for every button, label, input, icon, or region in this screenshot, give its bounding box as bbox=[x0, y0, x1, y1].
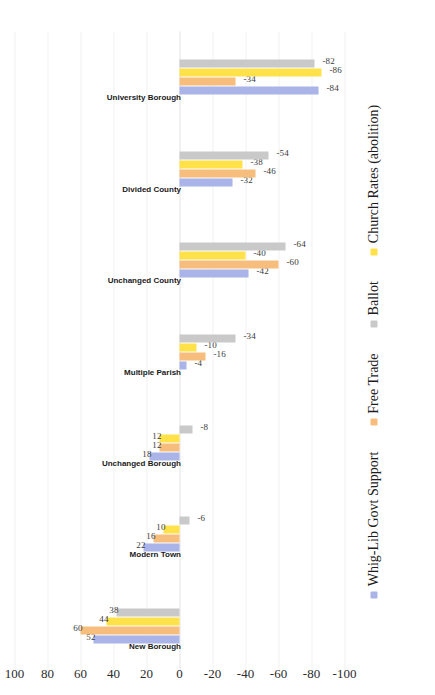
bars: -32-46-38-54Divided County bbox=[14, 122, 344, 213]
legend-label: Free Trade bbox=[365, 353, 381, 413]
bar-value-label: 12 bbox=[152, 430, 161, 440]
bar-group: 52604438New Borough bbox=[14, 580, 344, 671]
bar bbox=[179, 59, 314, 67]
bar-value-label: -64 bbox=[293, 238, 305, 248]
legend-item[interactable]: Free Trade bbox=[365, 353, 381, 425]
bar bbox=[179, 334, 235, 342]
bar-value-label: 60 bbox=[73, 622, 82, 632]
legend-swatch-icon bbox=[370, 418, 377, 425]
bar-group: -84-34-86-82University Borough bbox=[14, 31, 344, 122]
legend-item[interactable]: Church Rates (abolition) bbox=[365, 104, 381, 254]
category-label: Divided County bbox=[122, 184, 181, 193]
bar bbox=[159, 443, 179, 451]
bar bbox=[179, 260, 278, 268]
legend-swatch-icon bbox=[370, 320, 377, 327]
bar bbox=[179, 178, 232, 186]
category-label: New Borough bbox=[129, 641, 181, 650]
bar-group: 221610-6Modern Town bbox=[14, 488, 344, 579]
bar bbox=[116, 608, 179, 616]
legend-item[interactable]: Whig-Lib Govt Support bbox=[365, 451, 381, 598]
bar bbox=[179, 343, 196, 351]
rotated-figure: 52604438New Borough221610-6Modern Town18… bbox=[0, 0, 435, 695]
bar bbox=[179, 77, 235, 85]
bar-value-label: -6 bbox=[197, 512, 205, 522]
category-label: Multiple Parish bbox=[124, 367, 181, 376]
bar-value-label: 22 bbox=[135, 539, 144, 549]
legend-swatch-icon bbox=[370, 248, 377, 255]
bar bbox=[179, 352, 205, 360]
category-label: University Borough bbox=[106, 93, 180, 102]
category-label: Unchanged County bbox=[107, 276, 180, 285]
bar-value-label: 18 bbox=[142, 448, 151, 458]
chart-legend: Whig-Lib Govt SupportFree TradeBallotChu… bbox=[360, 31, 386, 671]
bar bbox=[179, 425, 192, 433]
bar bbox=[179, 251, 245, 259]
bars: -84-34-86-82University Borough bbox=[14, 31, 344, 122]
legend-label: Church Rates (abolition) bbox=[365, 104, 381, 242]
bar bbox=[80, 626, 179, 634]
bar-value-label: 16 bbox=[145, 530, 154, 540]
bar bbox=[179, 68, 321, 76]
bar-value-label: -8 bbox=[200, 421, 208, 431]
bar bbox=[179, 169, 255, 177]
bar bbox=[179, 242, 285, 250]
bar bbox=[159, 434, 179, 442]
bar bbox=[153, 534, 179, 542]
bar-value-label: 10 bbox=[155, 521, 164, 531]
bar bbox=[179, 151, 268, 159]
legend-item[interactable]: Ballot bbox=[365, 281, 381, 327]
bar bbox=[179, 86, 318, 94]
bar-value-label: -34 bbox=[243, 330, 255, 340]
bars: 52604438New Borough bbox=[14, 580, 344, 671]
bars: -4-16-10-34Multiple Parish bbox=[14, 305, 344, 396]
bars: 181212-8Unchanged Borough bbox=[14, 397, 344, 488]
bar-value-label: -60 bbox=[286, 256, 298, 266]
bars: -42-60-40-64Unchanged County bbox=[14, 214, 344, 305]
bar bbox=[179, 269, 248, 277]
plot-area: 52604438New Borough221610-6Modern Town18… bbox=[14, 31, 344, 671]
legend-label: Whig-Lib Govt Support bbox=[365, 451, 381, 586]
chart-canvas: 52604438New Borough221610-6Modern Town18… bbox=[0, 0, 435, 695]
bar-groups: 52604438New Borough221610-6Modern Town18… bbox=[14, 31, 344, 671]
bar-value-label: -54 bbox=[276, 147, 288, 157]
category-label: Modern Town bbox=[129, 550, 180, 559]
bar-value-label: -86 bbox=[329, 64, 341, 74]
bar-group: 181212-8Unchanged Borough bbox=[14, 397, 344, 488]
bars: 221610-6Modern Town bbox=[14, 488, 344, 579]
bar-value-label: -46 bbox=[263, 165, 275, 175]
legend-label: Ballot bbox=[365, 281, 381, 315]
bar-group: -32-46-38-54Divided County bbox=[14, 122, 344, 213]
bar-group: -4-16-10-34Multiple Parish bbox=[14, 305, 344, 396]
bar-value-label: 44 bbox=[99, 613, 108, 623]
bar-value-label: -82 bbox=[322, 55, 334, 65]
legend-swatch-icon bbox=[370, 591, 377, 598]
bar-group: -42-60-40-64Unchanged County bbox=[14, 214, 344, 305]
bar-value-label: 38 bbox=[109, 604, 118, 614]
bar-value-label: -84 bbox=[326, 82, 338, 92]
category-label: Unchanged Borough bbox=[101, 458, 180, 467]
bar bbox=[106, 617, 179, 625]
bar bbox=[179, 160, 242, 168]
bar bbox=[179, 516, 189, 524]
